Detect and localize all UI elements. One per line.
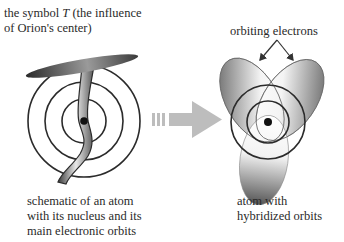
- electron-pointer-arrows: [260, 40, 293, 60]
- hybridized-caption: atom with hybridized orbits: [237, 194, 322, 224]
- t-symbol-stem: [58, 66, 94, 184]
- left-atom: [25, 50, 140, 184]
- symbol-t-caption: the symbol T (the influence of Orion's c…: [4, 6, 141, 36]
- transformation-arrow: [152, 101, 222, 138]
- nucleus: [264, 118, 272, 126]
- schematic-caption: schematic of an atom with its nucleus an…: [27, 194, 142, 239]
- nucleus: [80, 117, 88, 125]
- right-atom: [206, 47, 337, 208]
- orbiting-electrons-label: orbiting electrons: [230, 24, 318, 39]
